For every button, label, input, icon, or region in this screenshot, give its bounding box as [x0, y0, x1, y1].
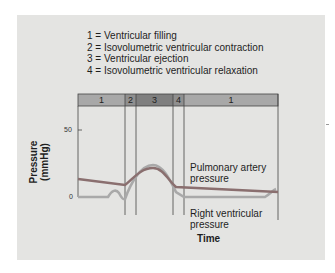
phase-label-2: 2 — [125, 95, 136, 105]
phase-label-1: 1 — [78, 95, 125, 105]
x-axis-label: Time — [197, 233, 220, 244]
pulmonary-artery-label: Pulmonary artery pressure — [190, 162, 266, 184]
phase-label-5: 1 — [184, 95, 278, 105]
y-axis-label: Pressure (mmHg) — [28, 132, 50, 192]
margin-mark — [326, 124, 329, 125]
y-tick-50: 50 — [64, 126, 72, 133]
phase-label-4: 4 — [173, 95, 184, 105]
pressure-chart — [0, 0, 335, 273]
right-ventricular-label: Right ventricular pressure — [190, 208, 262, 230]
y-tick-0: 0 — [69, 193, 73, 200]
phase-label-3: 3 — [136, 95, 173, 105]
